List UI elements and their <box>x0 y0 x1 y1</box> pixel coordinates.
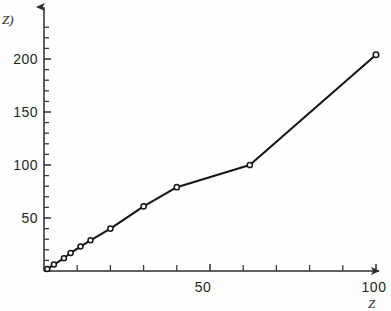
y-tick-label-50: 50 <box>21 210 38 226</box>
data-point-marker <box>141 204 146 209</box>
x-tick-label-50: 50 <box>195 279 212 295</box>
data-point-marker <box>45 266 50 271</box>
data-point-marker <box>373 52 379 58</box>
chart-svg: 50 100 150 200 Z) <box>0 0 391 311</box>
figure-canvas: 50 100 150 200 Z) <box>0 0 391 311</box>
x-axis-major-ticks <box>210 264 376 271</box>
y-tick-label-100: 100 <box>13 157 38 173</box>
data-point-marker <box>51 262 56 267</box>
data-point-marker <box>78 244 83 249</box>
x-axis-title: Z <box>368 296 376 311</box>
y-tick-label-200: 200 <box>13 51 38 67</box>
data-point-marker <box>108 226 113 231</box>
y-tick-label-150: 150 <box>13 104 38 120</box>
data-point-marker <box>174 185 179 190</box>
x-tick-label-100: 100 <box>362 279 387 295</box>
data-point-marker <box>88 238 93 243</box>
data-point-marker <box>247 162 252 167</box>
series-polyline <box>47 55 376 269</box>
data-point-marker <box>68 251 73 256</box>
x-axis: 50 100 Z <box>44 264 386 311</box>
y-axis: 50 100 150 200 Z) <box>2 7 51 271</box>
data-series-1 <box>45 52 379 271</box>
y-axis-title: Z) <box>2 12 14 27</box>
y-axis-major-ticks <box>44 59 51 218</box>
data-point-marker <box>61 256 66 261</box>
